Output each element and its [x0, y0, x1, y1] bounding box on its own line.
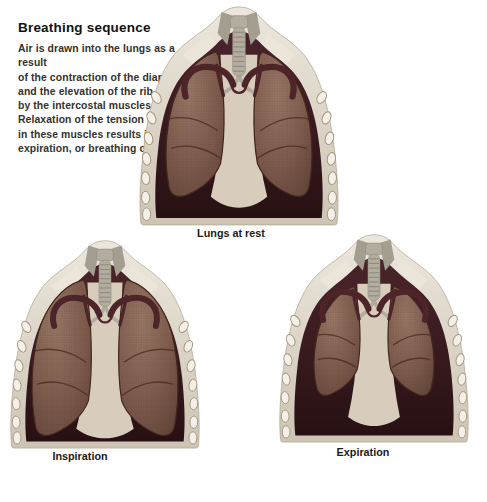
thorax-illustration-expiration	[272, 232, 476, 443]
figure-caption-inspiration: Inspiration	[0, 450, 160, 462]
page: Breathing sequence Air is drawn into the…	[0, 0, 487, 502]
thorax-illustration-inspiration	[3, 238, 207, 449]
figure-caption-lungs-at-rest: Lungs at rest	[151, 227, 311, 239]
thorax-illustration-lungs-at-rest	[132, 4, 346, 226]
figure-caption-expiration: Expiration	[283, 446, 443, 458]
